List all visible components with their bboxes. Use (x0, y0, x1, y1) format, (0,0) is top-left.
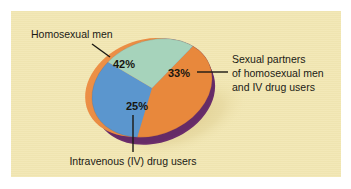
slice-percent-sexual-partners: 33% (168, 67, 190, 79)
callout-homosexual-men: Homosexual men (31, 28, 113, 40)
leader-line-homosexual-men (92, 44, 110, 57)
callout-iv-drug-users: Intravenous (IV) drug users (69, 155, 196, 167)
slice-percent-homosexual-men: 42% (113, 58, 135, 70)
figure-page: 42% 33% 25% Homosexual men Sexual partne… (0, 0, 351, 189)
slice-percent-iv-drug-users: 25% (126, 100, 148, 112)
callout-sexual-partners-line3: and IV drug users (232, 81, 315, 93)
pie-chart-graphic: 42% 33% 25% Homosexual men Sexual partne… (0, 0, 351, 189)
callout-sexual-partners-line1: Sexual partners (232, 53, 306, 65)
callout-sexual-partners-line2: of homosexual men (232, 67, 324, 79)
